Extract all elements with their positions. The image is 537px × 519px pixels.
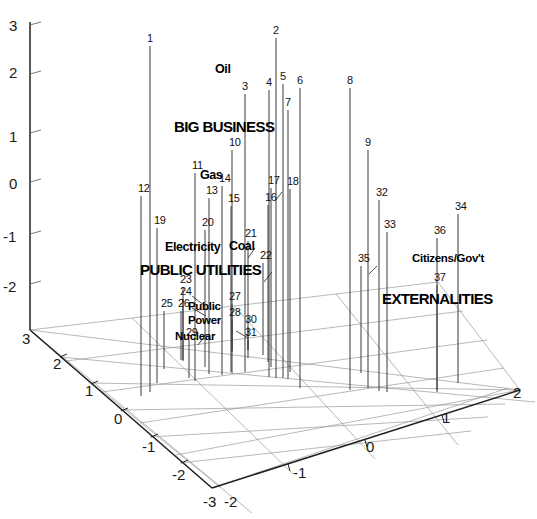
- point-label-19: 19: [154, 214, 166, 226]
- point-label-32: 32: [376, 186, 388, 198]
- point-label-27: 27: [229, 290, 241, 302]
- z-tick-2: 1: [9, 128, 17, 145]
- point-label-10: 10: [229, 136, 241, 148]
- cluster-label-power: Power: [188, 314, 221, 326]
- point-label-13: 13: [206, 184, 218, 196]
- x-tick-1: -1: [293, 464, 306, 481]
- cluster-label-electricity: Electricity: [165, 240, 220, 254]
- x-tick-3: 1: [442, 409, 450, 426]
- z-tick-3: 0: [9, 175, 17, 192]
- y-tick-1: 1: [85, 382, 93, 399]
- point-label-18: 18: [287, 175, 299, 187]
- point-label-24: 24: [180, 285, 192, 297]
- point-label-31: 31: [245, 326, 257, 338]
- y-tick-4: -2: [172, 466, 185, 483]
- stem-lines-group: [141, 38, 458, 396]
- cluster-label-public-utilities: PUBLIC UTILITIES: [140, 261, 261, 278]
- point-label-20: 20: [202, 216, 214, 228]
- point-label-16: 16: [265, 191, 277, 203]
- z-axis-ticks: [30, 22, 41, 284]
- z-tick-1: 2: [9, 64, 17, 81]
- point-label-8: 8: [347, 74, 353, 86]
- cluster-label-big-business: BIG BUSINESS: [174, 118, 274, 135]
- point-label-37: 37: [434, 271, 446, 283]
- x-tick-2: 0: [366, 438, 374, 455]
- point-label-6: 6: [297, 74, 303, 86]
- z-tick-0: 3: [9, 17, 17, 34]
- point-label-33: 33: [384, 218, 396, 230]
- point-label-15: 15: [228, 192, 240, 204]
- point-label-3: 3: [242, 80, 248, 92]
- point-label-25: 25: [161, 297, 173, 309]
- z-tick-4: -1: [3, 228, 16, 245]
- point-label-4: 4: [266, 76, 272, 88]
- x-tick-0: -2: [224, 493, 237, 510]
- x-tick-4: 2: [513, 384, 521, 401]
- cluster-label-public: Public: [188, 300, 221, 312]
- point-label-12: 12: [138, 182, 150, 194]
- chart-3d-stem-plot: 3210-1-23 210-1-2-3 -2-1012 123456789101…: [0, 0, 537, 519]
- y-tick-2: 0: [114, 410, 122, 427]
- floor-grid-lines-major: [30, 282, 520, 488]
- cluster-label-coal: Coal: [229, 239, 255, 253]
- z-tick-5: -2: [3, 278, 16, 295]
- cluster-label-oil: Oil: [215, 62, 230, 76]
- point-label-17: 17: [268, 174, 280, 186]
- z-tick-6: 3: [22, 330, 30, 347]
- point-label-5: 5: [280, 70, 286, 82]
- point-label-34: 34: [455, 200, 467, 212]
- y-tick-5: -3: [203, 493, 216, 510]
- point-label-2: 2: [273, 24, 279, 36]
- cluster-label-nuclear: Nuclear: [175, 330, 215, 342]
- point-label-1: 1: [147, 32, 153, 44]
- point-label-7: 7: [285, 96, 291, 108]
- point-label-30: 30: [245, 313, 257, 325]
- point-label-9: 9: [365, 136, 371, 148]
- point-label-35: 35: [358, 252, 370, 264]
- point-label-28: 28: [229, 306, 241, 318]
- point-label-36: 36: [434, 224, 446, 236]
- cluster-label-externalities: EXTERNALITIES: [382, 290, 493, 307]
- y-tick-0: 2: [53, 355, 61, 372]
- y-tick-3: -1: [142, 438, 155, 455]
- cluster-label-gas: Gas: [200, 168, 222, 182]
- point-label-21: 21: [245, 227, 257, 239]
- point-label-22: 22: [260, 249, 272, 261]
- cluster-label-citizens-govt: Citizens/Gov't: [412, 252, 484, 264]
